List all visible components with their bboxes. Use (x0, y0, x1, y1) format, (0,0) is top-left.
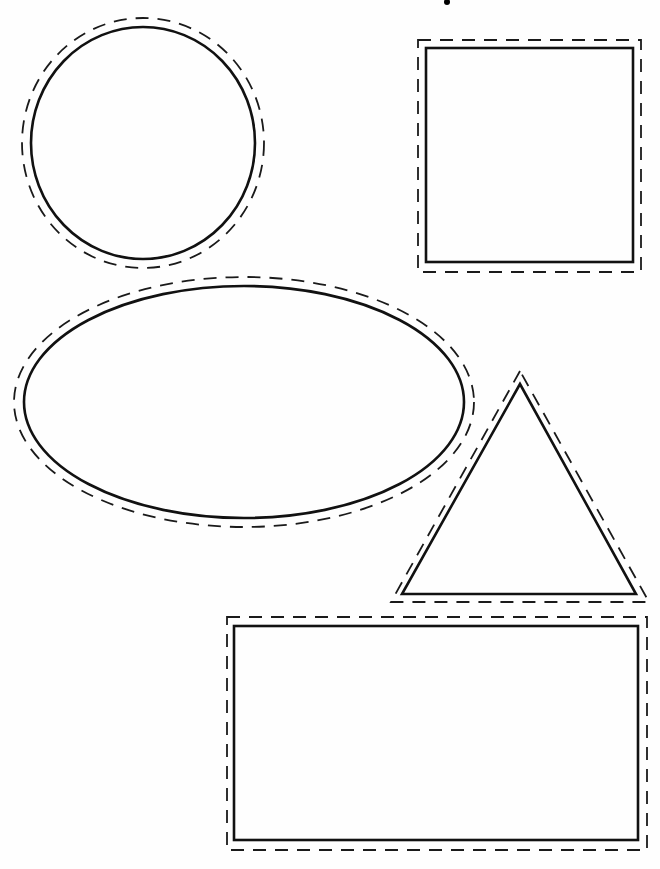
square-shape (418, 40, 641, 272)
square-outline (426, 48, 633, 262)
oval-shape (14, 277, 474, 527)
circle-shape (22, 18, 264, 268)
oval-cut-line (14, 277, 474, 527)
triangle-cut-line (391, 371, 649, 602)
rectangle-outline (234, 626, 638, 840)
worksheet-page (0, 0, 660, 869)
square-cut-line (418, 40, 641, 272)
oval-outline (24, 286, 464, 518)
circle-outline (31, 27, 255, 259)
shapes-canvas (0, 0, 660, 869)
triangle-shape (391, 371, 649, 602)
triangle-outline (402, 384, 636, 594)
stray-dot-mark (444, 0, 450, 5)
circle-cut-line (22, 18, 264, 268)
rectangle-cut-line (227, 617, 647, 850)
rectangle-shape (227, 617, 647, 850)
